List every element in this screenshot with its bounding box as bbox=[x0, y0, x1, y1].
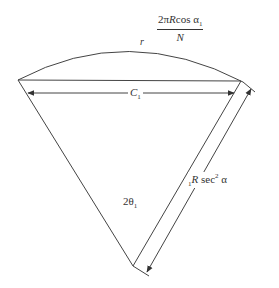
formula-subscript: 1 bbox=[199, 20, 203, 28]
radius-label-alpha: α bbox=[219, 173, 228, 185]
formula-R: R bbox=[169, 13, 176, 25]
formula-2pi: 2π bbox=[158, 13, 169, 25]
left-radius-line bbox=[18, 80, 133, 266]
angle-label: 2θ1 bbox=[123, 195, 137, 210]
formula-cos-alpha: cos α bbox=[176, 13, 199, 25]
angle-label-text: 2θ bbox=[123, 195, 134, 207]
radius-label: 1R sec2 α bbox=[188, 172, 227, 188]
chord-label-sub: 1 bbox=[137, 93, 141, 101]
formula-numerator: 2πRcos α1 bbox=[157, 13, 203, 30]
angle-label-sub: 1 bbox=[134, 202, 138, 210]
radius-label-sec: sec bbox=[198, 173, 215, 185]
chord-label: C1 bbox=[128, 86, 143, 101]
arc-length-formula: 2πRcos α1 N bbox=[157, 13, 203, 43]
arc-label: r bbox=[140, 36, 144, 47]
chord-line bbox=[18, 80, 241, 81]
apex-extension-line bbox=[133, 266, 149, 276]
formula-denominator: N bbox=[157, 30, 203, 43]
